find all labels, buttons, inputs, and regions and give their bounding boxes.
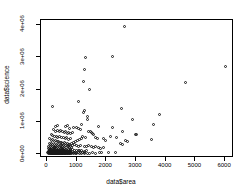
data-point <box>56 124 59 127</box>
x-tick <box>224 157 225 161</box>
data-point <box>77 100 80 103</box>
y-tick-label: 1e+06 <box>19 108 26 134</box>
data-point <box>135 133 138 136</box>
y-tick-label: 3e+06 <box>19 43 26 69</box>
x-tick <box>165 157 166 161</box>
y-axis-title: data$science <box>3 55 10 115</box>
x-tick-label: 4000 <box>150 162 180 169</box>
y-tick-label: 2e+06 <box>19 76 26 102</box>
x-tick-label: 0 <box>31 162 61 169</box>
data-point <box>131 118 134 121</box>
scatter-plot-figure: 0100020003000400050006000 0e+001e+062e+0… <box>0 0 242 194</box>
plot-area <box>40 19 233 157</box>
data-point <box>82 111 85 114</box>
data-point <box>79 144 82 147</box>
x-tick-label: 1000 <box>61 162 91 169</box>
data-point <box>114 151 117 154</box>
x-tick <box>76 157 77 161</box>
data-points-layer <box>41 20 232 156</box>
data-point <box>121 143 124 146</box>
y-tick-label: 4e+06 <box>19 11 26 37</box>
data-point <box>111 126 114 129</box>
y-tick <box>36 153 40 154</box>
data-point <box>84 136 87 139</box>
y-tick <box>36 56 40 57</box>
y-tick <box>36 89 40 90</box>
x-tick <box>105 157 106 161</box>
data-point <box>104 139 107 142</box>
y-tick-label: 0e+00 <box>19 140 26 166</box>
data-point <box>158 113 161 116</box>
data-point <box>150 138 153 141</box>
data-point <box>80 123 83 126</box>
x-tick <box>194 157 195 161</box>
data-point <box>224 65 227 68</box>
data-point <box>82 80 85 83</box>
data-point <box>94 152 97 155</box>
data-point <box>126 140 129 143</box>
data-point <box>152 123 155 126</box>
x-tick-label: 5000 <box>179 162 209 169</box>
x-tick <box>46 157 47 161</box>
data-point <box>84 56 87 59</box>
data-point <box>107 151 110 154</box>
data-point <box>121 130 124 133</box>
data-point <box>69 137 72 140</box>
data-point <box>184 81 187 84</box>
x-tick-label: 6000 <box>209 162 239 169</box>
data-point <box>120 107 123 110</box>
data-point <box>111 55 114 58</box>
data-point <box>71 131 74 134</box>
y-tick <box>36 24 40 25</box>
data-point <box>51 105 54 108</box>
data-point <box>102 146 105 149</box>
data-point <box>115 136 118 139</box>
data-point <box>109 135 112 138</box>
y-tick <box>36 121 40 122</box>
data-point <box>86 118 89 121</box>
x-axis-title: data$area <box>0 178 242 185</box>
x-tick-label: 3000 <box>120 162 150 169</box>
data-point <box>100 151 103 154</box>
data-point <box>123 25 126 28</box>
x-tick-label: 2000 <box>90 162 120 169</box>
x-tick <box>135 157 136 161</box>
data-point <box>97 125 100 128</box>
data-point <box>68 127 71 130</box>
data-point <box>88 88 91 91</box>
data-point <box>83 68 86 71</box>
data-point <box>79 128 82 131</box>
